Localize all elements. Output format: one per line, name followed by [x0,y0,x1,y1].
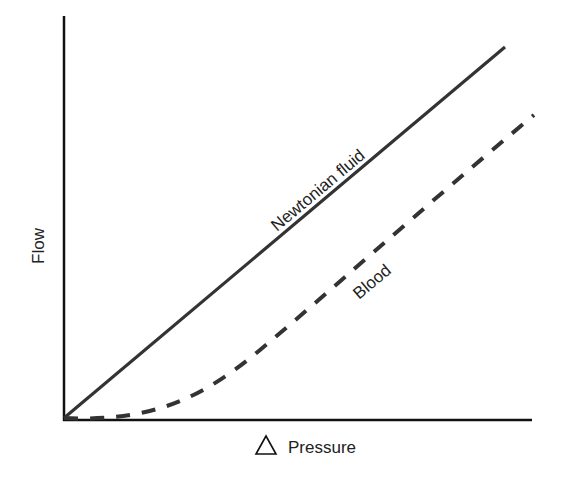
y-axis-label: Flow [29,227,48,264]
newtonian-fluid-label: Newtonian fluid [267,146,368,235]
newtonian-fluid-line [64,47,505,418]
x-axis-label: Pressure [256,436,356,457]
flow-pressure-chart: Newtonian fluid Blood Pressure Flow [0,0,568,481]
x-axis-label-text: Pressure [288,438,356,457]
blood-curve [64,115,534,418]
delta-icon [256,436,276,454]
